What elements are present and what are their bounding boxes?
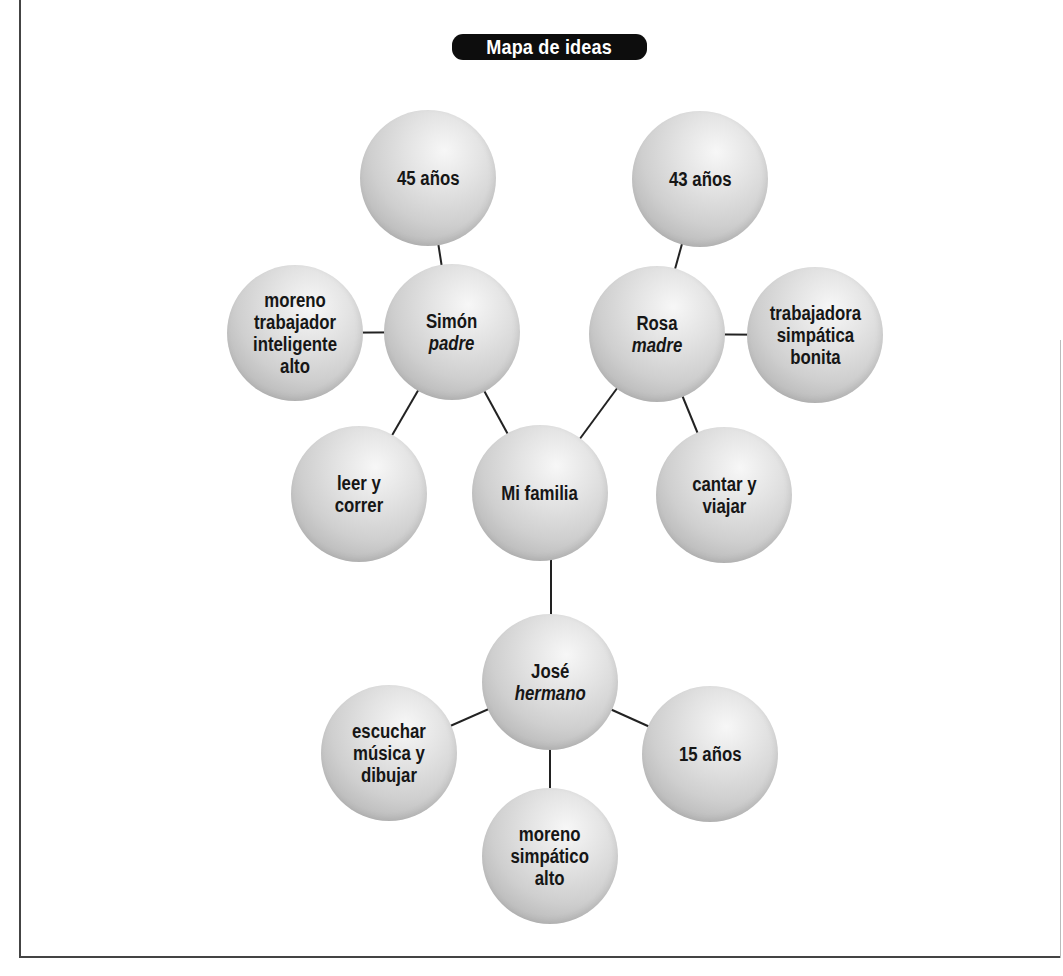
node-hermano-description: moreno simpático alto — [482, 788, 618, 924]
node-hermano: José hermano — [482, 614, 618, 750]
node-mi-familia: Mi familia — [472, 425, 608, 561]
padre-role: padre — [426, 332, 477, 354]
node-madre-age: 43 años — [632, 111, 768, 247]
hermano-name: José — [515, 660, 586, 682]
node-madre-description: trabajadora simpática bonita — [747, 267, 883, 403]
node-madre: Rosa madre — [589, 266, 725, 402]
node-padre-description: moreno trabajador inteligente alto — [227, 265, 363, 401]
hermano-role: hermano — [515, 682, 586, 704]
node-madre-hobbies: cantar y viajar — [656, 427, 792, 563]
padre-name: Simón — [426, 310, 477, 332]
madre-name: Rosa — [632, 312, 682, 334]
madre-role: madre — [632, 334, 682, 356]
node-hermano-hobbies: escuchar música y dibujar — [321, 685, 457, 821]
node-padre-hobbies: leer y correr — [291, 426, 427, 562]
node-padre-age: 45 años — [360, 110, 496, 246]
node-hermano-age: 15 años — [642, 686, 778, 822]
node-padre: Simón padre — [384, 264, 520, 400]
